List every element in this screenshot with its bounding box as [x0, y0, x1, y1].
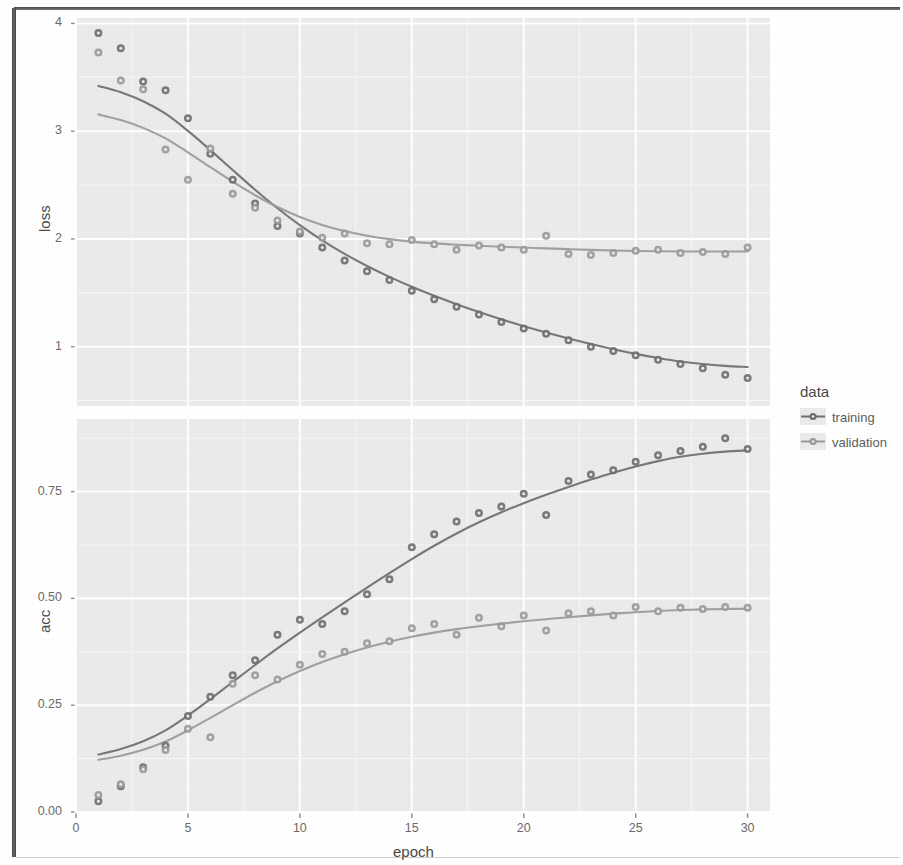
- data-point-training-acc: [497, 503, 505, 511]
- data-point-validation-acc: [273, 676, 281, 684]
- data-point-training-acc: [565, 477, 573, 485]
- data-point-validation-acc: [117, 780, 125, 788]
- data-point-training-acc: [520, 490, 528, 498]
- data-point-validation-acc: [475, 614, 483, 622]
- data-point-validation-acc: [184, 725, 192, 733]
- data-point-validation-acc: [632, 603, 640, 611]
- chart-canvas: [0, 0, 903, 865]
- smooth-line-validation-acc: [98, 609, 747, 760]
- x-tick-label: 30: [728, 821, 768, 835]
- data-point-training-loss: [363, 267, 371, 275]
- data-point-training-loss: [341, 257, 349, 265]
- data-point-training-loss: [430, 295, 438, 303]
- chart-figure: loss acc epoch data training validation …: [0, 0, 903, 865]
- legend-label-validation: validation: [832, 435, 887, 450]
- data-point-training-acc: [453, 518, 461, 526]
- data-point-training-loss: [453, 303, 461, 311]
- data-point-training-loss: [699, 364, 707, 372]
- data-point-training-acc: [206, 693, 214, 701]
- data-point-validation-acc: [296, 661, 304, 669]
- data-point-validation-acc: [721, 603, 729, 611]
- data-point-training-loss: [542, 330, 550, 338]
- data-point-training-loss: [184, 114, 192, 122]
- data-point-validation-loss: [453, 246, 461, 254]
- legend-title: data: [800, 383, 829, 400]
- data-point-training-loss: [94, 29, 102, 37]
- data-point-validation-loss: [654, 246, 662, 254]
- data-point-training-acc: [296, 616, 304, 624]
- y-tick-label-acc: 0.00: [0, 804, 62, 818]
- data-point-validation-acc: [453, 631, 461, 639]
- data-point-validation-loss: [475, 241, 483, 249]
- data-point-validation-acc: [251, 671, 259, 679]
- data-point-validation-loss: [520, 246, 528, 254]
- data-point-validation-acc: [654, 607, 662, 615]
- data-point-training-loss: [676, 360, 684, 368]
- data-point-validation-loss: [341, 230, 349, 238]
- data-point-validation-loss: [565, 250, 573, 258]
- data-point-validation-acc: [94, 791, 102, 799]
- data-point-validation-loss: [699, 248, 707, 256]
- data-point-validation-loss: [430, 240, 438, 248]
- data-point-training-loss: [520, 324, 528, 332]
- data-point-validation-loss: [363, 239, 371, 247]
- data-point-training-acc: [363, 590, 371, 598]
- data-point-validation-acc: [162, 746, 170, 754]
- legend-label-training: training: [832, 410, 875, 425]
- data-point-validation-acc: [385, 637, 393, 645]
- data-point-training-loss: [408, 287, 416, 295]
- data-point-training-acc: [654, 451, 662, 459]
- y-tick-label-loss: 4: [0, 15, 62, 29]
- y-axis-title-loss: loss: [36, 205, 53, 232]
- y-axis-title-acc: acc: [36, 609, 53, 632]
- data-point-training-loss: [117, 44, 125, 52]
- data-point-training-loss: [162, 86, 170, 94]
- data-point-training-loss: [565, 336, 573, 344]
- data-point-training-loss: [318, 244, 326, 252]
- data-point-validation-acc: [318, 650, 326, 658]
- data-point-validation-loss: [229, 190, 237, 198]
- data-point-validation-acc: [744, 604, 752, 612]
- data-point-validation-loss: [296, 227, 304, 235]
- data-point-training-acc: [676, 447, 684, 455]
- legend-key-glyph: [800, 433, 826, 450]
- legend-key-glyph: [800, 408, 826, 425]
- data-point-validation-acc: [609, 612, 617, 620]
- data-point-training-acc: [699, 443, 707, 451]
- y-tick-label-loss: 2: [0, 231, 62, 245]
- data-point-validation-loss: [542, 232, 550, 240]
- data-point-training-loss: [475, 310, 483, 318]
- x-tick-label: 20: [504, 821, 544, 835]
- data-point-training-loss: [587, 343, 595, 351]
- data-point-validation-acc: [363, 639, 371, 647]
- data-point-validation-acc: [430, 620, 438, 628]
- data-point-validation-acc: [341, 648, 349, 656]
- data-point-training-loss: [654, 356, 662, 364]
- data-point-validation-loss: [632, 247, 640, 255]
- data-point-validation-loss: [184, 176, 192, 184]
- data-point-training-acc: [632, 458, 640, 466]
- data-point-validation-loss: [385, 240, 393, 248]
- y-tick-label-acc: 0.50: [0, 590, 62, 604]
- data-point-validation-loss: [721, 250, 729, 258]
- data-point-training-loss: [229, 176, 237, 184]
- data-point-validation-acc: [139, 765, 147, 773]
- data-point-validation-acc: [520, 612, 528, 620]
- data-point-training-acc: [273, 631, 281, 639]
- data-point-training-acc: [251, 656, 259, 664]
- data-point-training-acc: [184, 712, 192, 720]
- data-point-validation-loss: [408, 236, 416, 244]
- x-tick-label: 10: [280, 821, 320, 835]
- data-point-training-loss: [497, 318, 505, 326]
- data-point-training-acc: [229, 671, 237, 679]
- y-tick-label-loss: 3: [0, 123, 62, 137]
- data-point-validation-loss: [206, 144, 214, 152]
- data-point-validation-acc: [699, 605, 707, 613]
- data-point-training-acc: [341, 607, 349, 615]
- x-axis-title: epoch: [393, 843, 434, 860]
- data-point-validation-loss: [744, 244, 752, 252]
- x-tick-label: 25: [616, 821, 656, 835]
- data-point-validation-loss: [139, 85, 147, 93]
- data-point-training-acc: [587, 471, 595, 479]
- x-tick-label: 5: [168, 821, 208, 835]
